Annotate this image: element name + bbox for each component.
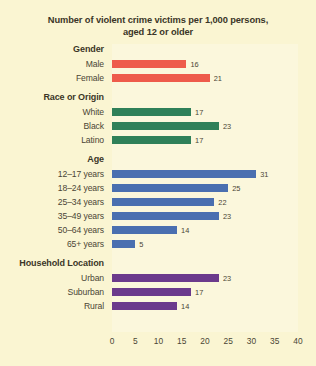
bar-value-label: 17 xyxy=(195,287,203,298)
bar-value-label: 22 xyxy=(218,197,226,208)
x-tick-label: 0 xyxy=(103,336,121,346)
x-tick-label: 15 xyxy=(173,336,191,346)
bar xyxy=(112,122,219,130)
bar-row-label: 65+ years xyxy=(0,239,104,250)
bar xyxy=(112,240,135,248)
group-heading-race-or-origin: Race or Origin xyxy=(0,92,104,102)
bar xyxy=(112,302,177,310)
chart-title: Number of violent crime victims per 1,00… xyxy=(18,14,298,38)
bar xyxy=(112,184,228,192)
group-heading-household-location: Household Location xyxy=(0,258,104,268)
bar xyxy=(112,74,210,82)
bar-value-label: 23 xyxy=(223,273,231,284)
bar-row-label: Male xyxy=(0,59,104,70)
bar-row-label: Latino xyxy=(0,135,104,146)
bar-value-label: 23 xyxy=(223,121,231,132)
bar-row-label: 50–64 years xyxy=(0,225,104,236)
bar-value-label: 14 xyxy=(181,301,189,312)
x-tick-label: 35 xyxy=(266,336,284,346)
bar-row-label: White xyxy=(0,107,104,118)
bar-value-label: 17 xyxy=(195,135,203,146)
x-tick-label: 10 xyxy=(150,336,168,346)
bar-value-label: 23 xyxy=(223,211,231,222)
x-tick-label: 40 xyxy=(289,336,307,346)
bar xyxy=(112,226,177,234)
bar-value-label: 31 xyxy=(260,169,268,180)
bar xyxy=(112,274,219,282)
bar-value-label: 16 xyxy=(190,59,198,70)
bar-row-label: 25–34 years xyxy=(0,197,104,208)
x-tick-label: 25 xyxy=(219,336,237,346)
group-heading-age: Age xyxy=(0,154,104,164)
bar-value-label: 17 xyxy=(195,107,203,118)
bar-value-label: 21 xyxy=(214,73,222,84)
x-tick-label: 20 xyxy=(196,336,214,346)
bar-row-label: Black xyxy=(0,121,104,132)
group-heading-gender: Gender xyxy=(0,44,104,54)
bar xyxy=(112,198,214,206)
bar-row-label: Suburban xyxy=(0,287,104,298)
bar xyxy=(112,136,191,144)
bar-row-label: Urban xyxy=(0,273,104,284)
bar-value-label: 14 xyxy=(181,225,189,236)
chart-card: Number of violent crime victims per 1,00… xyxy=(0,0,316,366)
bar xyxy=(112,108,191,116)
chart-title-line-1: Number of violent crime victims per 1,00… xyxy=(18,14,298,26)
bar-row-label: Female xyxy=(0,73,104,84)
bar xyxy=(112,60,186,68)
bar xyxy=(112,170,256,178)
bar-row-label: 18–24 years xyxy=(0,183,104,194)
bar xyxy=(112,212,219,220)
bar-row-label: 12–17 years xyxy=(0,169,104,180)
bar-row-label: 35–49 years xyxy=(0,211,104,222)
chart-title-line-2: aged 12 or older xyxy=(18,26,298,38)
bar-row-label: Rural xyxy=(0,301,104,312)
x-tick-label: 5 xyxy=(126,336,144,346)
bar-value-label: 25 xyxy=(232,183,240,194)
bar xyxy=(112,288,191,296)
x-axis: 0510152025303540 xyxy=(112,336,298,350)
x-tick-label: 30 xyxy=(243,336,261,346)
bar-value-label: 5 xyxy=(139,239,143,250)
